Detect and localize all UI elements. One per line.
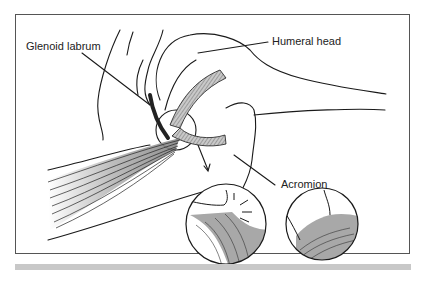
bottom-divider-bar [15, 264, 411, 270]
label-glenoid-labrum: Glenoid labrum [26, 40, 101, 52]
label-humeral-head: Humeral head [272, 35, 341, 47]
label-acromion: Acromion [281, 178, 327, 190]
